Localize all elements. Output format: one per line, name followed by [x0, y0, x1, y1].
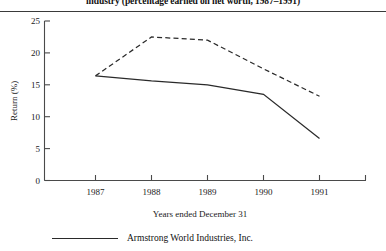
- chart-legend: Armstrong World Industries, Inc.: [0, 228, 386, 251]
- series-line-armstrong: [96, 76, 320, 139]
- y-tick-label: 0: [36, 176, 41, 186]
- y-tick-label: 20: [31, 48, 41, 58]
- chart-plot-area: 25 20 15 10 5 0 Return (%) 1987 1988 198…: [0, 12, 386, 227]
- line-chart-svg: 25 20 15 10 5 0 Return (%) 1987 1988 198…: [0, 12, 386, 227]
- x-tick-label: 1987: [87, 187, 106, 197]
- legend-item-label: Armstrong World Industries, Inc.: [127, 233, 253, 243]
- series-line-industry: [96, 37, 320, 96]
- x-axis-tick-labels: 1987 1988 1989 1990 1991: [87, 187, 329, 197]
- y-axis-title: Return (%): [9, 81, 19, 121]
- y-axis-tick-labels: 25 20 15 10 5 0: [31, 16, 41, 186]
- y-axis-ticks: [45, 21, 51, 181]
- legend-item: Armstrong World Industries, Inc.: [52, 232, 253, 244]
- x-tick-label: 1990: [255, 187, 274, 197]
- x-tick-label: 1988: [143, 187, 162, 197]
- legend-line-solid-icon: [52, 238, 118, 239]
- figure-caption: industry (percentage earned on net worth…: [0, 0, 386, 10]
- x-tick-label: 1991: [311, 187, 329, 197]
- y-tick-label: 25: [31, 16, 41, 26]
- y-tick-label: 5: [36, 144, 41, 154]
- y-tick-label: 15: [31, 80, 41, 90]
- y-tick-label: 10: [31, 112, 41, 122]
- x-axis-title: Years ended December 31: [153, 209, 247, 219]
- x-axis-ticks: [96, 175, 366, 181]
- x-tick-label: 1989: [199, 187, 218, 197]
